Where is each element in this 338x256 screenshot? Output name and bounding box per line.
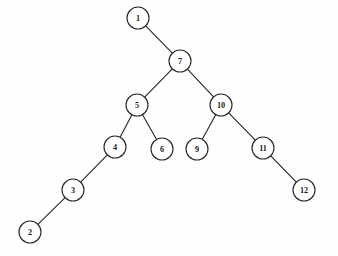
node-label-3: 3	[71, 186, 75, 195]
tree-node-11[interactable]: 11	[252, 137, 274, 159]
tree-node-12[interactable]: 12	[293, 179, 315, 201]
tree-node-1[interactable]: 1	[127, 7, 149, 29]
node-label-6: 6	[160, 145, 164, 154]
node-label-1: 1	[136, 14, 140, 23]
tree-node-3[interactable]: 3	[62, 179, 84, 201]
node-label-10: 10	[217, 101, 225, 110]
tree-node-4[interactable]: 4	[104, 136, 126, 158]
node-label-11: 11	[259, 144, 266, 153]
tree-node-5[interactable]: 5	[126, 94, 148, 116]
node-label-9: 9	[195, 145, 199, 154]
tree-node-6[interactable]: 6	[151, 138, 173, 160]
tree-node-7[interactable]: 7	[169, 50, 191, 72]
tree-node-2[interactable]: 2	[19, 221, 41, 243]
node-label-2: 2	[28, 228, 32, 237]
diagram-background	[0, 0, 338, 256]
node-label-7: 7	[178, 57, 182, 66]
node-label-5: 5	[135, 101, 139, 110]
node-label-4: 4	[113, 143, 117, 152]
binary-tree-diagram: 17510469113122	[0, 0, 338, 256]
tree-node-10[interactable]: 10	[210, 94, 232, 116]
tree-node-9[interactable]: 9	[186, 138, 208, 160]
node-label-12: 12	[300, 186, 308, 195]
